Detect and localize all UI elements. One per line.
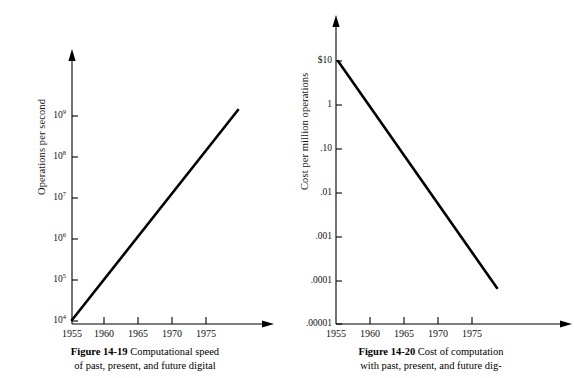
y-tick-label-point001: .001 [293, 231, 332, 241]
figure-14-19-caption-line2: of past, present, and future digital [14, 359, 276, 373]
x-tick-label-1965: 1965 [123, 328, 153, 339]
x-tick-label-1970: 1970 [423, 328, 453, 339]
figure-14-19-caption: Figure 14-19 Computational speed of past… [14, 345, 276, 372]
figure-14-20-caption: Figure 14-20 Cost of computation with pa… [300, 345, 562, 372]
x-tick-label-1960: 1960 [89, 328, 119, 339]
y-ticks-14-20 [336, 61, 342, 324]
figure-14-20-caption-line1: Cost of computation [418, 346, 504, 357]
x-tick-label-1965: 1965 [389, 328, 419, 339]
y-tick-label-point01: .01 [293, 187, 332, 197]
y-axis-14-19 [68, 49, 75, 324]
y-tick-label-1e6: 106 [36, 233, 66, 243]
y-tick-label-point10: .10 [293, 143, 332, 153]
y-tick-label-point0001: .0001 [293, 275, 332, 285]
figure-14-20-caption-line2: with past, present, and future dig- [300, 359, 562, 373]
y-tick-label-1e7: 107 [36, 192, 66, 202]
figure-14-19-number: Figure 14-19 [71, 346, 128, 357]
figure-14-20-number: Figure 14-20 [358, 346, 415, 357]
x-tick-label-1955: 1955 [321, 328, 351, 339]
y-ticks-14-19 [72, 116, 78, 321]
y-tick-label-1e9: 109 [36, 110, 66, 120]
figure-14-19-caption-line1: Computational speed [130, 346, 219, 357]
x-tick-label-1970: 1970 [157, 328, 187, 339]
y-tick-label-10-dollars: $10 [293, 55, 332, 65]
y-tick-label-1e5: 105 [36, 274, 66, 284]
x-tick-label-1975: 1975 [457, 328, 487, 339]
x-tick-label-1975: 1975 [191, 328, 221, 339]
x-ticks-14-19 [104, 317, 206, 324]
y-axis-title-14-20: Cost per million operations [299, 73, 310, 190]
y-tick-label-point00001: .00001 [293, 318, 332, 328]
y-tick-label-1: 1 [293, 99, 332, 109]
figure-14-19-panel: Operations per second 109 108 107 106 10… [0, 0, 287, 378]
data-line-cost [338, 61, 497, 288]
figure-14-20-panel: Cost per million operations $10 1 .10 .0… [287, 0, 574, 378]
x-axis-14-19 [72, 320, 274, 327]
data-line-speed [72, 110, 238, 320]
x-ticks-14-20 [370, 317, 472, 324]
figure-14-20-plot [287, 0, 574, 340]
y-tick-label-1e4: 104 [36, 315, 66, 325]
y-tick-label-1e8: 108 [36, 151, 66, 161]
x-axis-14-20 [336, 320, 572, 327]
x-tick-label-1955: 1955 [57, 328, 87, 339]
x-tick-label-1960: 1960 [355, 328, 385, 339]
